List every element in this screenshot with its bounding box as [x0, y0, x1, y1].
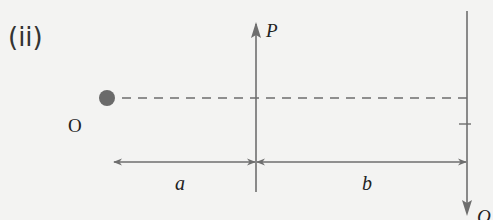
part-label: (ii): [8, 22, 43, 52]
pivot-point-icon: [99, 90, 115, 106]
force-q-label: Q: [477, 206, 491, 220]
distance-a-label: a: [175, 172, 185, 194]
force-p-label: P: [265, 20, 278, 41]
moments-diagram: (ii) O P Q a b: [0, 0, 493, 220]
distance-b-label: b: [362, 172, 372, 194]
pivot-label: O: [68, 115, 82, 136]
